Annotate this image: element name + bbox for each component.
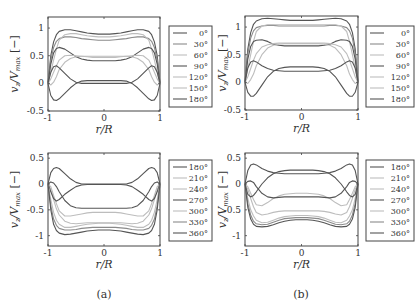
x-tick-label: 1 <box>157 113 163 123</box>
x-axis-label: r/R <box>95 123 112 136</box>
y-tick-label: 0.5 <box>30 51 45 61</box>
legend-label: 180° <box>189 95 208 104</box>
y-tick-label: 0 <box>235 77 241 87</box>
legend-label: 270° <box>189 196 208 205</box>
legend-label: 90° <box>194 62 208 71</box>
legend: 180°210°240°270°300°330°360° <box>169 160 212 241</box>
x-tick-label: 1 <box>355 112 361 122</box>
caption-a: (a) <box>96 288 111 301</box>
x-axis-label: r/R <box>95 258 112 271</box>
x-tick-label: 1 <box>355 248 361 258</box>
x-tick-label: 1 <box>157 248 163 258</box>
legend-label: 300° <box>391 207 410 216</box>
legend-label: 180° <box>391 163 410 172</box>
legend-label: 330° <box>189 218 208 227</box>
y-tick-label: -1 <box>35 231 44 241</box>
legend-label: 360° <box>391 229 410 238</box>
y-tick-label: 0 <box>38 78 44 88</box>
x-tick-label: 0 <box>299 112 305 122</box>
plot-area <box>245 16 358 110</box>
legend-label: 210° <box>391 174 410 183</box>
legend-label: 30° <box>396 40 410 49</box>
figure: -101-0.500.51r/Rvz/Vmax [−]0°30°60°90°12… <box>0 0 417 305</box>
legend-label: 0° <box>401 29 410 38</box>
panel-b-top: -101-0.500.51r/Rvz/Vmax [−]0°30°60°90°12… <box>216 16 414 135</box>
y-tick-label: 1 <box>235 22 241 32</box>
legend-label: 240° <box>189 185 208 194</box>
legend-label: 360° <box>189 229 208 238</box>
y-tick-label: -0.5 <box>27 205 45 215</box>
legend-label: 60° <box>396 51 410 60</box>
legend-label: 270° <box>391 196 410 205</box>
legend-label: 210° <box>189 174 208 183</box>
plot-area <box>245 153 358 246</box>
y-tick-label: 0 <box>235 179 241 189</box>
legend-label: 180° <box>189 163 208 172</box>
x-tick-label: 0 <box>299 248 305 258</box>
x-tick-label: -1 <box>44 113 53 123</box>
y-tick-label: -0.5 <box>27 106 45 116</box>
legend-label: 60° <box>194 51 208 60</box>
legend-label: 180° <box>391 95 410 104</box>
legend: 0°30°60°90°120°150°180° <box>366 26 414 107</box>
y-axis-label: vz/Vmax [−] <box>216 34 230 92</box>
legend: 180°210°240°270°300°330°360° <box>366 160 414 241</box>
plot-area <box>48 17 160 111</box>
y-tick-label: 0.5 <box>227 153 242 163</box>
legend-label: 330° <box>391 218 410 227</box>
legend-label: 300° <box>189 207 208 216</box>
legend-label: 120° <box>189 73 208 82</box>
y-tick-label: -1 <box>232 231 241 241</box>
y-axis-label: vz/Vmax [−] <box>8 171 22 229</box>
y-axis-label: vz/Vmax [−] <box>8 35 22 93</box>
legend-label: 0° <box>199 29 208 38</box>
legend-label: 240° <box>391 185 410 194</box>
y-axis-label: vz/Vmax [−] <box>216 171 230 229</box>
y-tick-label: -0.5 <box>224 105 242 115</box>
legend-label: 90° <box>396 62 410 71</box>
panel-a-top: -101-0.500.51r/Rvz/Vmax [−]0°30°60°90°12… <box>8 17 212 136</box>
y-tick-label: 1 <box>38 23 44 33</box>
legend: 0°30°60°90°120°150°180° <box>169 26 212 107</box>
y-tick-label: 0 <box>38 179 44 189</box>
x-tick-label: -1 <box>241 112 250 122</box>
caption-b: (b) <box>293 288 309 301</box>
x-tick-label: 0 <box>101 248 107 258</box>
legend-label: 30° <box>194 40 208 49</box>
legend-label: 150° <box>391 84 410 93</box>
legend-label: 150° <box>189 84 208 93</box>
x-axis-label: r/R <box>293 122 310 135</box>
x-tick-label: -1 <box>241 248 250 258</box>
x-tick-label: 0 <box>101 113 107 123</box>
x-axis-label: r/R <box>293 258 310 271</box>
panel-b-bottom: -101-1-0.500.5r/Rvz/Vmax [−]180°210°240°… <box>216 153 414 271</box>
y-tick-label: 0.5 <box>30 153 45 163</box>
legend-label: 120° <box>391 73 410 82</box>
panel-a-bottom: -101-1-0.500.5r/Rvz/Vmax [−]180°210°240°… <box>8 153 212 271</box>
x-tick-label: -1 <box>44 248 53 258</box>
